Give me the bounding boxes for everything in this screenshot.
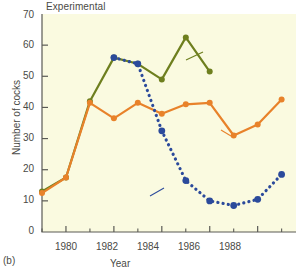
figure-panel-b: Experimental Number of cocks Year (b) 70… bbox=[0, 0, 296, 277]
chart-canvas bbox=[0, 0, 296, 277]
